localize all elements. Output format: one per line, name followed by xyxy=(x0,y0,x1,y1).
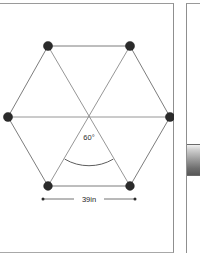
angle-label: 60° xyxy=(83,133,94,142)
vertex-dot-top-left[interactable] xyxy=(43,41,52,50)
gradient-swatch xyxy=(187,144,200,176)
dimension-tick-right xyxy=(134,198,137,201)
hexagon-edge-top-left xyxy=(8,46,48,117)
hexagon-edge-top-right xyxy=(130,46,170,117)
vertex-dot-left[interactable] xyxy=(3,112,12,121)
vertex-dot-bottom-right[interactable] xyxy=(126,182,135,191)
angle-arc xyxy=(65,159,114,166)
hexagon-diagonals xyxy=(8,46,170,186)
vertex-dot-right[interactable] xyxy=(165,112,174,121)
hexagon-diagram: 60° 39in xyxy=(0,4,174,254)
figure-panel: 60° 39in xyxy=(0,3,174,253)
vertex-dot-bottom-left[interactable] xyxy=(44,182,53,191)
hexagon-edge-bottom-right xyxy=(130,117,170,186)
dimension-label: 39in xyxy=(82,195,96,204)
hexagon-edge-bottom-left xyxy=(8,117,48,186)
screenshot-canvas: 60° 39in xyxy=(0,0,200,258)
vertex-dot-top-right[interactable] xyxy=(125,41,134,50)
adjacent-panel xyxy=(186,3,200,253)
dimension-tick-left xyxy=(42,198,45,201)
